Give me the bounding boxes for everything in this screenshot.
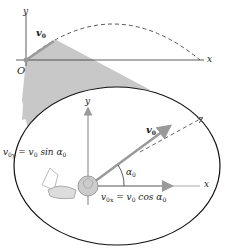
vx-component-label: v0x = v0 cos α0: [101, 193, 166, 203]
top-x-axis-label: x: [207, 55, 212, 64]
soccer-ball: [78, 176, 98, 196]
figure-graphics: [0, 0, 232, 249]
angle-label: α0: [126, 168, 136, 178]
vy-component-label: v0y = v0 sin α0: [3, 148, 66, 158]
inset-velocity-label: v0: [146, 125, 156, 136]
top-velocity-label: v0: [36, 28, 46, 39]
projectile-figure: y x O v0 y x v0 α0 v0y = v0 sin α0 v0x =…: [0, 0, 232, 249]
top-y-axis-label: y: [23, 7, 28, 16]
inset-y-axis-label: y: [85, 97, 90, 106]
origin-label: O: [17, 66, 25, 76]
inset-x-axis-label: x: [204, 180, 209, 189]
